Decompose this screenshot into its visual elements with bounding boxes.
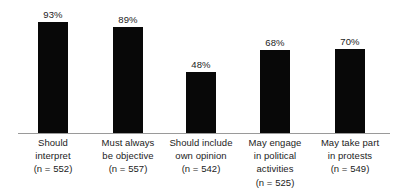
category-label-3-line-2: own opinion xyxy=(159,149,243,162)
bar-group-3: 48% xyxy=(164,0,238,133)
bar-column-5: 70% xyxy=(313,0,387,133)
category-label-1-line-3: (n = 552) xyxy=(11,162,95,175)
category-label-4-line-4: (n = 525) xyxy=(233,176,317,189)
x-axis-line xyxy=(18,133,390,134)
bar-group-2: 89% xyxy=(91,0,165,133)
category-label-4-line-1: May engage xyxy=(233,136,317,149)
category-label-5-line-2: in protests xyxy=(308,149,392,162)
category-label-3-line-3: (n = 542) xyxy=(159,162,243,175)
bar-column-3: 48% xyxy=(164,0,238,133)
bar-rect-3[interactable] xyxy=(186,72,216,133)
bar-value-label-2: 89% xyxy=(118,14,137,25)
category-label-5: May take part in protests (n = 549) xyxy=(308,136,392,176)
bar-chart: 93% 89% 48% 68% 70% xyxy=(0,0,405,194)
bar-value-label-4: 68% xyxy=(265,37,284,48)
bar-group-4: 68% xyxy=(238,0,312,133)
category-label-4-line-2: in political xyxy=(233,149,317,162)
category-label-3: Should include own opinion (n = 542) xyxy=(159,136,243,176)
category-label-5-line-1: May take part xyxy=(308,136,392,149)
category-label-3-line-1: Should include xyxy=(159,136,243,149)
category-label-5-line-3: (n = 549) xyxy=(308,162,392,175)
bar-rect-2[interactable] xyxy=(113,27,143,133)
category-label-1-line-2: interpret xyxy=(11,149,95,162)
bar-value-label-3: 48% xyxy=(191,59,210,70)
bar-value-label-1: 93% xyxy=(43,9,62,20)
bar-rect-4[interactable] xyxy=(260,50,290,133)
category-label-2-line-1: Must always xyxy=(86,136,170,149)
category-label-2-line-3: (n = 557) xyxy=(86,162,170,175)
bar-column-4: 68% xyxy=(238,0,312,133)
bar-group-1: 93% xyxy=(16,0,90,133)
plot-area: 93% 89% 48% 68% 70% xyxy=(0,0,405,134)
category-label-1-line-1: Should xyxy=(11,136,95,149)
bar-rect-5[interactable] xyxy=(335,49,365,133)
category-label-2: Must always be objective (n = 557) xyxy=(86,136,170,176)
bar-column-1: 93% xyxy=(16,0,90,133)
category-label-2-line-2: be objective xyxy=(86,149,170,162)
bar-group-5: 70% xyxy=(313,0,387,133)
category-label-4-line-3: activities xyxy=(233,162,317,175)
category-label-4: May engage in political activities (n = … xyxy=(233,136,317,189)
category-label-1: Should interpret (n = 552) xyxy=(11,136,95,176)
category-labels-row: Should interpret (n = 552) Must always b… xyxy=(0,136,405,194)
bar-rect-1[interactable] xyxy=(38,22,68,133)
bar-column-2: 89% xyxy=(91,0,165,133)
bar-value-label-5: 70% xyxy=(340,36,359,47)
